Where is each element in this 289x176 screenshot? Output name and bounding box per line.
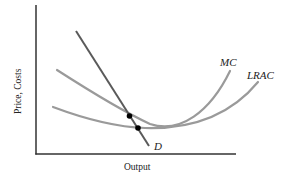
lrac-curve — [53, 82, 258, 128]
y-axis-label: Price, Costs — [13, 68, 23, 114]
x-axis-label: Output — [124, 162, 151, 172]
mc-label: MC — [219, 56, 237, 68]
lrac-label: LRAC — [246, 69, 275, 81]
lrac-demand-intersection-dot — [135, 125, 141, 131]
mc-demand-intersection-dot — [127, 113, 133, 119]
demand-label: D — [153, 140, 162, 152]
cost-curves-chart: MC LRAC D Output Price, Costs — [0, 0, 289, 176]
